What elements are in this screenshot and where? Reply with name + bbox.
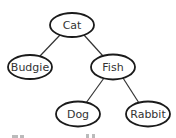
node-fish: Fish — [91, 55, 135, 80]
cropped-text-fragments — [12, 134, 95, 138]
node-dog: Dog — [56, 102, 100, 127]
edge-cat-fish — [84, 35, 103, 56]
edge-fish-rabbit — [123, 78, 139, 103]
tree-diagram: Cat Budgie Fish Dog Rabbit — [0, 0, 176, 138]
node-label-fish: Fish — [102, 61, 123, 74]
node-cat: Cat — [50, 13, 94, 37]
node-label-dog: Dog — [67, 108, 89, 121]
node-rabbit: Rabbit — [126, 102, 170, 127]
node-budgie: Budgie — [8, 55, 52, 79]
node-label-budgie: Budgie — [11, 61, 50, 74]
node-label-cat: Cat — [63, 19, 82, 32]
edge-cat-budgie — [40, 35, 60, 56]
edge-fish-dog — [86, 78, 104, 103]
node-label-rabbit: Rabbit — [130, 108, 166, 121]
